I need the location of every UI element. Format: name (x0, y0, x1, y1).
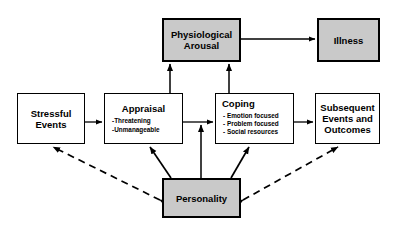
node-subsequent-events[interactable]: Subsequent Events and Outcomes (315, 93, 380, 144)
edge-personality-to-appraisal (150, 147, 171, 178)
node-label: Stressful Events (31, 108, 72, 130)
node-stressful-events[interactable]: Stressful Events (17, 93, 85, 144)
bullet-item: -Threatening (112, 117, 182, 125)
node-label: Coping (216, 98, 255, 109)
bullet-item: - Problem focused (223, 120, 293, 128)
node-label: Subsequent Events and Outcomes (320, 102, 374, 135)
edge-personality-to-coping (231, 147, 249, 178)
node-label: Appraisal (122, 103, 165, 114)
node-illness[interactable]: Illness (317, 18, 380, 62)
node-bullet-list: - Emotion focused - Problem focused - So… (216, 112, 293, 137)
stress-process-diagram: Physiological Arousal Illness Stressful … (0, 0, 393, 238)
node-label: Illness (334, 35, 364, 46)
node-personality[interactable]: Personality (162, 178, 241, 218)
node-physiological-arousal[interactable]: Physiological Arousal (162, 18, 241, 62)
edge-personality-to-subsequent-events-dashed (243, 147, 338, 200)
bullet-item: - Social resources (223, 128, 293, 136)
node-label: Personality (176, 193, 227, 204)
edge-personality-to-stressful-events-dashed (53, 147, 160, 200)
node-coping[interactable]: Coping - Emotion focused - Problem focus… (215, 93, 294, 144)
node-label: Physiological Arousal (171, 29, 232, 51)
bullet-item: -Unmanageable (112, 126, 182, 134)
node-bullet-list: -Threatening -Unmanageable (105, 117, 182, 133)
bullet-item: - Emotion focused (223, 112, 293, 120)
node-appraisal[interactable]: Appraisal -Threatening -Unmanageable (104, 93, 183, 144)
